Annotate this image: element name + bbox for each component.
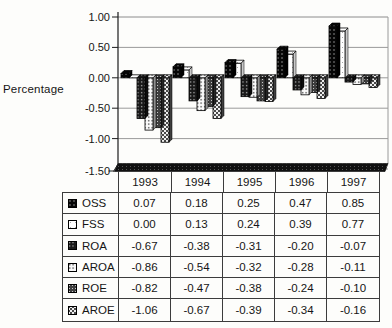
value-cell-aroa-1996: -0.28 (275, 257, 327, 278)
value-cell-roa-1996: -0.20 (275, 236, 327, 257)
bar-roa-1993 (137, 78, 145, 119)
bar-oss-1997 (329, 26, 337, 78)
year-header-cell: 1996 (275, 172, 327, 192)
year-header-cell: 1995 (223, 172, 275, 192)
y-axis-tick-label: -1.00 (85, 133, 110, 145)
legend-swatch-icon (68, 284, 77, 293)
bar-oss-1995 (225, 63, 233, 78)
series-label-cell: OSS (63, 193, 119, 214)
series-label-text: ROE (82, 282, 107, 294)
year-header-cell: 1994 (171, 172, 223, 192)
y-axis-tick-label: 1.00 (89, 11, 110, 23)
bar-side-face (273, 75, 276, 102)
series-label-text: AROA (82, 261, 115, 273)
value-cell-aroe-1994: -0.67 (171, 299, 223, 320)
bar-roa-1995 (241, 78, 249, 97)
value-cell-fss-1997: 0.77 (327, 214, 379, 235)
bar-oss-1993 (121, 74, 129, 78)
value-cell-roa-1997: -0.07 (327, 236, 379, 257)
bar-side-face (169, 75, 172, 142)
bar-side-face (293, 51, 296, 78)
series-label-text: OSS (82, 197, 106, 209)
y-axis-title: Percentage (3, 83, 73, 95)
legend-swatch-icon (68, 306, 77, 315)
bar-side-face (145, 75, 148, 119)
value-cell-roa-1994: -0.38 (171, 236, 223, 257)
bar-side-face (197, 75, 200, 101)
y-axis-tick-label: -1.50 (85, 165, 110, 177)
year-header-cell: 1997 (327, 172, 379, 192)
value-cell-oss-1995: 0.25 (223, 193, 275, 214)
chart-figure: 1.000.500.00-0.50-1.00-1.50 Percentage 1… (0, 0, 392, 328)
series-label-text: FSS (82, 218, 104, 230)
legend-swatch-icon (68, 220, 77, 229)
bar-side-face (257, 75, 260, 97)
value-cell-aroa-1995: -0.32 (223, 257, 275, 278)
series-label-cell: FSS (63, 214, 119, 235)
series-label-cell: AROA (63, 257, 119, 278)
value-cell-aroe-1996: -0.34 (275, 299, 327, 320)
data-table: OSS0.070.180.250.470.85FSS0.000.130.240.… (62, 192, 380, 322)
value-cell-aroe-1997: -0.16 (327, 299, 379, 320)
bar-side-face (221, 75, 224, 119)
y-axis-tick-label: 0.50 (89, 41, 110, 53)
value-cell-aroa-1994: -0.54 (171, 257, 223, 278)
bar-oss-1994 (173, 67, 181, 78)
value-cell-oss-1996: 0.47 (275, 193, 327, 214)
y-axis-tick-label: 0.00 (89, 72, 110, 84)
value-cell-aroe-1995: -0.39 (223, 299, 275, 320)
series-label-text: ROA (82, 240, 107, 252)
bar-side-face (213, 75, 216, 107)
value-cell-aroa-1993: -0.86 (119, 257, 171, 278)
value-cell-fss-1996: 0.39 (275, 214, 327, 235)
value-cell-aroa-1997: -0.11 (327, 257, 379, 278)
value-cell-oss-1993: 0.07 (119, 193, 171, 214)
series-label-cell: AROE (63, 299, 119, 320)
bar-oss-1996 (277, 49, 285, 78)
legend-swatch-icon (68, 199, 77, 208)
bar-roa-1994 (189, 78, 197, 101)
bar-side-face (285, 46, 288, 78)
table-header-row: 19931994199519961997 (118, 171, 380, 193)
bar-side-face (161, 75, 164, 128)
bar-side-face (325, 75, 328, 99)
bar-side-face (153, 75, 156, 130)
value-cell-roe-1995: -0.38 (223, 278, 275, 299)
bar-roa-1997 (345, 78, 353, 82)
value-cell-roa-1993: -0.67 (119, 236, 171, 257)
series-label-text: AROE (82, 304, 115, 316)
series-label-cell: ROA (63, 236, 119, 257)
value-cell-oss-1997: 0.85 (327, 193, 379, 214)
value-cell-oss-1994: 0.18 (171, 193, 223, 214)
y-axis-tick-label: -0.50 (85, 102, 110, 114)
value-cell-fss-1995: 0.24 (223, 214, 275, 235)
value-cell-roe-1994: -0.47 (171, 278, 223, 299)
value-cell-fss-1993: 0.00 (119, 214, 171, 235)
year-header-cell: 1993 (119, 172, 171, 192)
value-cell-roa-1995: -0.31 (223, 236, 275, 257)
value-cell-roe-1996: -0.24 (275, 278, 327, 299)
value-cell-roe-1993: -0.82 (119, 278, 171, 299)
legend-swatch-icon (68, 241, 77, 250)
value-cell-roe-1997: -0.10 (327, 278, 379, 299)
value-cell-fss-1994: 0.13 (171, 214, 223, 235)
series-label-cell: ROE (63, 278, 119, 299)
bar-side-face (249, 75, 252, 97)
bar-roa-1996 (293, 78, 301, 90)
bar-side-face (205, 75, 208, 111)
value-cell-aroe-1993: -1.06 (119, 299, 171, 320)
bar-side-face (337, 23, 340, 78)
bar-side-face (265, 75, 268, 101)
bar-side-face (345, 28, 348, 78)
legend-swatch-icon (68, 263, 77, 272)
